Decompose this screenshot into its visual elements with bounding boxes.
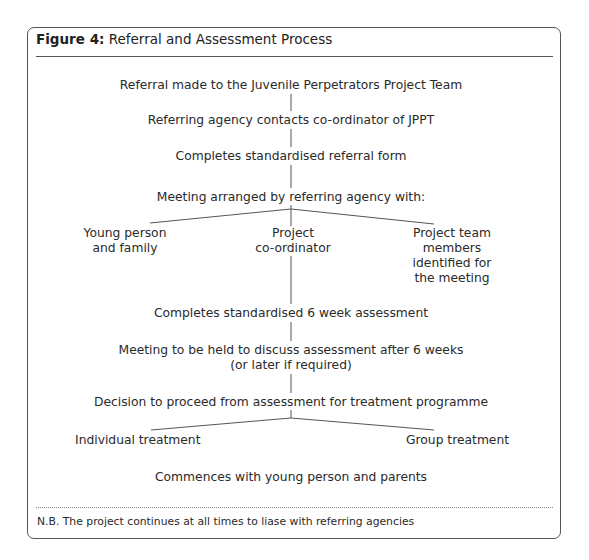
assessment-meeting-line-2: (or later if required) [119,358,464,373]
step-referral-form: Completes standardised referral form [176,149,407,164]
step-commences: Commences with young person and parents [155,470,427,485]
figure-label: Figure 4: [36,31,104,47]
participant-line: the meeting [413,271,492,286]
step-referral-made: Referral made to the Juvenile Perpetrato… [120,78,462,93]
option-individual-treatment: Individual treatment [75,433,201,448]
participant-line: and family [84,241,167,256]
figure-title: Figure 4: Referral and Assessment Proces… [36,31,332,47]
participant-team-members: Project team members identified for the … [413,226,492,286]
participant-line: Project [255,226,331,241]
option-group-treatment: Group treatment [406,433,509,448]
participant-line: members [413,241,492,256]
participant-line: Young person [84,226,167,241]
step-decision: Decision to proceed from assessment for … [94,395,488,410]
assessment-meeting-line-1: Meeting to be held to discuss assessment… [119,343,464,358]
title-divider [36,56,553,57]
figure-title-text: Referral and Assessment Process [109,31,333,47]
step-six-week-assessment: Completes standardised 6 week assessment [154,306,428,321]
step-meeting-arranged: Meeting arranged by referring agency wit… [157,190,425,205]
participant-line: identified for [413,256,492,271]
participant-young-person: Young person and family [84,226,167,256]
footnote: N.B. The project continues at all times … [37,515,414,529]
step-agency-contacts: Referring agency contacts co-ordinator o… [148,113,434,128]
participant-line: co-ordinator [255,241,331,256]
participant-line: Project team [413,226,492,241]
footnote-divider [36,507,553,508]
participant-coordinator: Project co-ordinator [255,226,331,256]
step-assessment-meeting: Meeting to be held to discuss assessment… [119,343,464,373]
